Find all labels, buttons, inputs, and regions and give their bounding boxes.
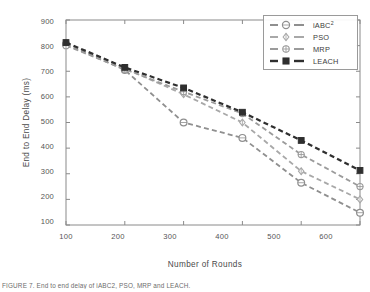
legend-key-iabc2 (268, 19, 310, 31)
data-point-iabc2-500 (298, 179, 305, 186)
figure-container: End to End Delay (ms) 900 800 700 600 50… (0, 0, 370, 292)
data-point-leach-300 (181, 85, 187, 91)
figure-caption: FIGURE 7. End to end delay of iABC2, PSO… (2, 282, 368, 289)
legend-item-pso[interactable]: PSO (268, 31, 353, 43)
data-point-iabc2-400 (239, 134, 246, 141)
legend-key-leach (268, 55, 310, 67)
data-point-leach-400 (240, 109, 246, 115)
legend-key-mrp (268, 43, 310, 55)
data-point-leach-500 (298, 138, 304, 144)
data-point-mrp-500 (298, 151, 305, 158)
data-point-iabc2-600 (357, 209, 364, 216)
data-point-iabc2-300 (180, 119, 187, 126)
legend-label-iabc2: iABC2 (310, 20, 334, 30)
legend-label-leach: LEACH (310, 57, 339, 66)
legend-item-leach[interactable]: LEACH (268, 55, 353, 67)
legend: iABC2 PSO MRP LEACH (263, 15, 358, 70)
legend-item-mrp[interactable]: MRP (268, 43, 353, 55)
data-point-mrp-600 (357, 183, 364, 190)
legend-label-pso: PSO (310, 33, 329, 42)
data-point-leach-600 (357, 168, 363, 174)
legend-label-mrp: MRP (310, 45, 330, 54)
data-point-pso-400 (240, 119, 245, 126)
data-point-pso-600 (357, 196, 362, 203)
x-axis-title: Number of Rounds (60, 260, 350, 269)
legend-item-iabc2[interactable]: iABC2 (268, 19, 353, 31)
legend-key-pso (268, 31, 310, 43)
data-point-leach-100 (63, 40, 69, 46)
data-point-leach-200 (122, 65, 128, 71)
